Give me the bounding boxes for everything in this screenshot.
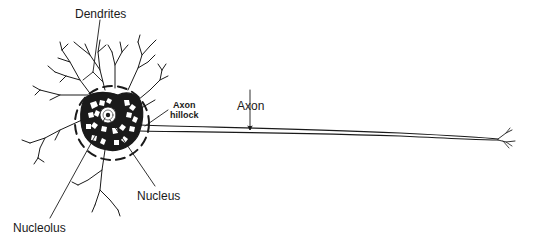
nucleolus-shape [106,113,110,117]
label-axon: Axon [237,100,264,112]
label-axon-hillock-line1: Axon [170,100,199,110]
label-dendrites: Dendrites [75,8,126,20]
cell-body [81,92,143,150]
label-axon-hillock: Axon hillock [170,100,199,121]
label-nucleus: Nucleus [137,190,180,202]
dendrites-pointer-lines [83,20,103,82]
label-nucleolus: Nucleolus [13,222,66,234]
label-axon-hillock-line2: hillock [170,110,199,120]
axon [140,125,515,148]
neuron-illustration [0,0,535,244]
